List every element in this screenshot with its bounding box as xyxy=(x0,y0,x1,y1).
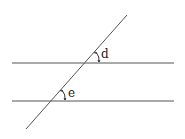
transversal-line xyxy=(26,15,127,129)
diagram-canvas: d e xyxy=(0,0,185,139)
angle-e-arrowhead-top xyxy=(60,90,62,92)
angle-e-label: e xyxy=(68,86,75,100)
angle-d-label: d xyxy=(101,47,109,61)
angle-d-arrowhead-top xyxy=(94,52,96,54)
parallel-lines-diagram: d e xyxy=(0,0,185,139)
